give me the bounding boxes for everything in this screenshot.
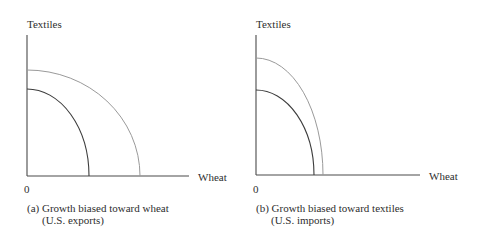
panel-b-y-axis-label: Textiles: [256, 18, 291, 30]
panel-a-caption-line1: (a) Growth biased toward wheat: [27, 202, 169, 214]
panel-a-y-axis-label: Textiles: [27, 18, 62, 30]
panel-b-origin-label: 0: [253, 183, 259, 195]
panel-a-caption: (a) Growth biased toward wheat (U.S. exp…: [27, 202, 169, 226]
panel-a-caption-line2: (U.S. exports): [27, 214, 169, 226]
panel-b-caption: (b) Growth biased toward textiles (U.S. …: [256, 202, 404, 226]
panel-a-plot: [27, 35, 189, 176]
panel-b-caption-line1: (b) Growth biased toward textiles: [256, 202, 404, 214]
panel-a-new-ppf-curve: [27, 70, 140, 176]
panel-a-x-axis-label: Wheat: [198, 171, 227, 183]
figure-canvas: [0, 0, 484, 236]
panel-a-origin-label: 0: [24, 183, 30, 195]
panel-b-original-ppf-curve: [256, 90, 314, 175]
panel-b-caption-line2: (U.S. imports): [256, 214, 404, 226]
panel-b-plot: [256, 35, 420, 175]
panel-b-x-axis-label: Wheat: [429, 170, 458, 182]
panel-a-original-ppf-curve: [27, 89, 89, 176]
